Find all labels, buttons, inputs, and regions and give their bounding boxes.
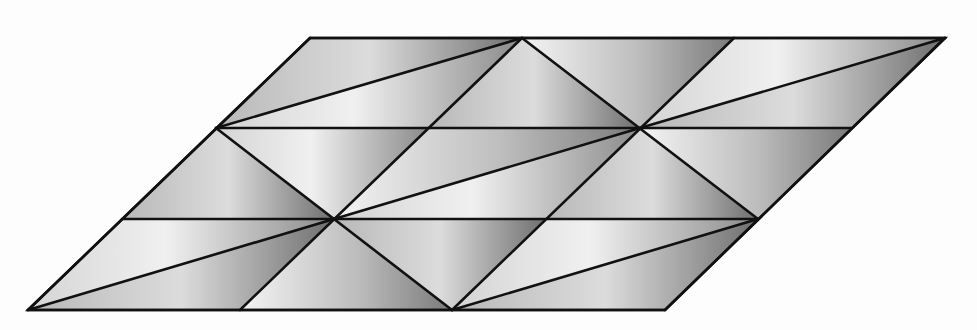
tessellated-parallelogram xyxy=(0,0,977,330)
diagram-canvas xyxy=(0,0,977,330)
